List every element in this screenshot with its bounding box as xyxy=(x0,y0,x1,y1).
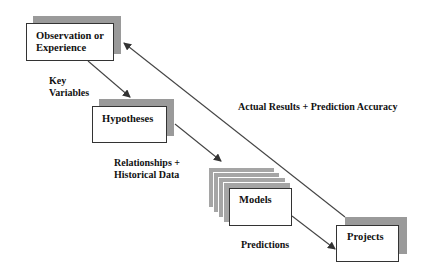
arrow-observation-to-hypotheses xyxy=(88,61,130,97)
arrow-hypotheses-to-models xyxy=(175,124,221,161)
research-cycle-diagram: Observation or Experience Key Variables … xyxy=(0,0,425,269)
arrow-models-to-projects xyxy=(292,216,335,249)
connector-arrows xyxy=(0,0,425,269)
arrow-projects-to-observation xyxy=(124,43,345,217)
